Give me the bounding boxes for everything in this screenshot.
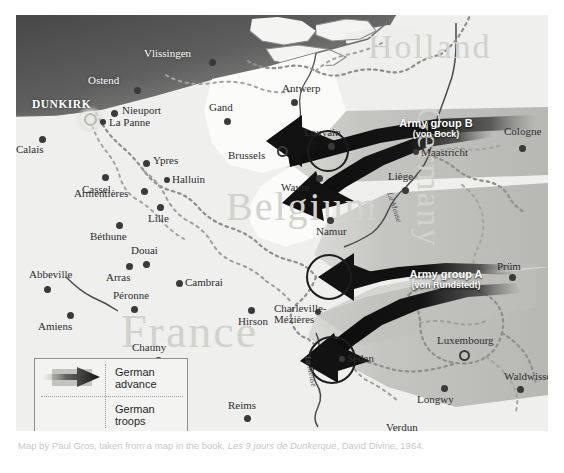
city-marker-douai bbox=[143, 261, 150, 268]
city-label-ypres: Ypres bbox=[153, 154, 178, 166]
legend-advance-label: German advance bbox=[115, 366, 157, 390]
city-label-halluin: Halluin bbox=[172, 173, 205, 185]
city-label-verdun: Verdun bbox=[386, 421, 418, 431]
city-label-cambrai: Cambrai bbox=[185, 276, 223, 288]
city-marker-halluin bbox=[164, 177, 170, 183]
city-marker-peronne bbox=[131, 306, 138, 313]
city-label-maastricht: Maastricht bbox=[421, 146, 468, 158]
city-label-chauny: Chauny bbox=[132, 341, 166, 353]
city-marker-dunkirk bbox=[84, 113, 97, 126]
city-label-abbeville: Abbeville bbox=[29, 268, 72, 280]
city-marker-calais bbox=[39, 136, 46, 143]
city-marker-brussels bbox=[277, 146, 288, 157]
city-marker-sedan bbox=[339, 356, 345, 362]
city-marker-namur bbox=[327, 217, 334, 224]
city-label-peronne: Péronne bbox=[113, 289, 149, 301]
city-label-louvain: Louvain bbox=[304, 126, 341, 138]
map-legend: German advance German troops bbox=[34, 358, 188, 431]
city-label-lille: Lille bbox=[148, 212, 169, 224]
legend-horizontal-divider bbox=[41, 396, 183, 397]
city-marker-gand bbox=[224, 118, 231, 125]
city-marker-vlissingen bbox=[209, 59, 216, 66]
legend-troops-arrow-icon bbox=[43, 367, 101, 387]
legend-troops-line1: German bbox=[115, 403, 155, 415]
city-label-amiens: Amiens bbox=[38, 320, 72, 332]
city-marker-longwy bbox=[441, 385, 448, 392]
city-marker-ostend bbox=[134, 87, 141, 94]
city-label-bethune: Béthune bbox=[90, 230, 127, 242]
city-marker-wavre bbox=[316, 175, 323, 182]
city-marker-amiens bbox=[67, 312, 74, 319]
city-marker-cologne bbox=[519, 145, 526, 152]
city-marker-bethune bbox=[116, 222, 123, 229]
city-label-douai: Douai bbox=[131, 244, 158, 256]
city-label-gand: Gand bbox=[209, 101, 233, 113]
city-marker-luxembourg bbox=[459, 350, 470, 361]
city-label-dunkirk: DUNKIRK bbox=[32, 98, 91, 110]
city-label-hirson: Hirson bbox=[238, 315, 268, 327]
army-group-a-commander: (von Rundstedt) bbox=[368, 280, 524, 291]
city-label-arras: Arras bbox=[106, 271, 130, 283]
city-marker-ypres bbox=[143, 160, 150, 167]
map-frame: Holland Belgium Germany France La Meuse … bbox=[16, 15, 548, 431]
river-label-meuse-north: La Meuse bbox=[385, 191, 403, 224]
city-label-wavre: Wavre bbox=[281, 181, 309, 193]
legend-advance-line2: advance bbox=[115, 378, 157, 390]
city-marker-hirson bbox=[248, 307, 255, 314]
map-caption: Map by Paul Gros, taken from a map in th… bbox=[18, 440, 546, 451]
city-label-brussels: Brussels bbox=[228, 149, 265, 161]
legend-troops-line2: troops bbox=[115, 415, 146, 427]
city-label-cologne: Cologne bbox=[504, 125, 541, 137]
city-label-namur: Namur bbox=[316, 225, 347, 237]
city-marker-abbeville bbox=[44, 286, 51, 293]
city-label-armentieres: Armentières bbox=[74, 187, 128, 199]
legend-advance-line1: German bbox=[115, 366, 155, 378]
city-label-calais: Calais bbox=[16, 143, 44, 155]
city-label-liege: Liège bbox=[388, 170, 413, 182]
city-label-charleville-mezieres: Charleville-Mézières bbox=[274, 303, 327, 325]
city-marker-antwerp bbox=[291, 99, 298, 106]
historical-map: Holland Belgium Germany France La Meuse … bbox=[0, 0, 564, 473]
city-marker-reims bbox=[244, 415, 251, 422]
city-label-la-panne: La Panne bbox=[109, 116, 150, 128]
city-label-longwy: Longwy bbox=[417, 393, 454, 405]
city-label-nieuport: Nieuport bbox=[122, 104, 161, 116]
army-group-b-commander: (von Bock) bbox=[366, 129, 506, 140]
caption-book-title: Les 9 jours de Dunkerque bbox=[228, 440, 337, 451]
city-marker-arras bbox=[126, 263, 133, 270]
city-label-vlissingen: Vlissingen bbox=[144, 47, 191, 59]
city-label-sedan: Sedan bbox=[347, 352, 374, 364]
country-label-holland: Holland bbox=[368, 28, 492, 66]
army-group-a-banner: Army group A (von Rundstedt) bbox=[368, 269, 524, 291]
city-marker-waldwisse bbox=[517, 386, 524, 393]
city-marker-cassel bbox=[102, 174, 109, 181]
river-label-meuse-south: La Meuse bbox=[303, 355, 318, 388]
army-group-b-banner: Army group B (von Bock) bbox=[366, 118, 506, 140]
city-label-waldwisse: Waldwisse bbox=[504, 370, 548, 382]
city-label-luxembourg: Luxembourg bbox=[437, 334, 494, 346]
caption-suffix: , David Divine, 1964. bbox=[336, 440, 424, 451]
city-marker-armentieres bbox=[141, 188, 148, 195]
city-marker-lille bbox=[157, 204, 164, 211]
caption-prefix: Map by Paul Gros, taken from a map in th… bbox=[18, 440, 228, 451]
army-group-b-title: Army group B bbox=[366, 118, 506, 129]
city-marker-maastricht bbox=[413, 149, 419, 155]
city-marker-louvain bbox=[328, 143, 335, 150]
city-marker-cambrai bbox=[176, 280, 183, 287]
city-marker-liege bbox=[402, 187, 409, 194]
legend-troops-label: German troops bbox=[115, 403, 155, 427]
city-label-reims: Reims bbox=[228, 399, 256, 411]
city-label-ostend: Ostend bbox=[88, 74, 119, 86]
city-marker-la-panne bbox=[100, 119, 106, 125]
city-label-antwerp: Antwerp bbox=[282, 82, 321, 94]
army-group-a-title: Army group A bbox=[368, 269, 524, 280]
